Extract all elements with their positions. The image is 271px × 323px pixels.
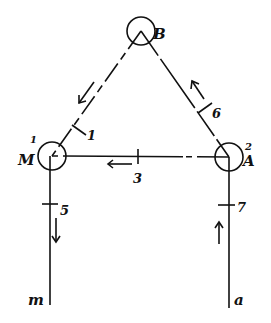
terminal-a-label: a [234,291,244,309]
arrow-edge-6-icon [191,81,204,99]
node-m-label: M [17,151,35,169]
edge-a-m [52,156,229,157]
edge-label-3: 3 [133,171,142,186]
node-a-label: A [241,152,255,170]
node-a-number: 2 [244,141,252,152]
edge-label-5: 5 [60,203,69,218]
network-diagram: B M 1 A 2 1 6 3 5 7 m a [0,0,271,323]
edge-label-1: 1 [87,128,96,143]
terminal-m-label: m [28,291,44,309]
edge-label-6: 6 [212,106,221,121]
tick-6 [198,103,212,113]
tick-1 [72,125,86,135]
edge-label-7: 7 [237,200,246,215]
arrow-edge-5-icon [52,218,60,242]
arrow-edge-7-icon [215,222,223,244]
diagram-canvas: B M 1 A 2 1 6 3 5 7 m a [0,0,271,323]
arrow-edge-3-icon [108,160,132,168]
edge-a-b [141,31,229,157]
edge-b-m [52,31,141,156]
node-b-label: B [152,25,166,43]
node-m-number: 1 [30,134,37,145]
